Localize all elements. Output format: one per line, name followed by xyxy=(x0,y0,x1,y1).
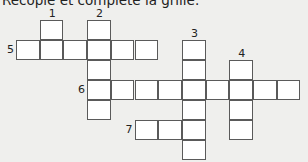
grid-cell[interactable] xyxy=(111,40,135,60)
grid-cell[interactable] xyxy=(229,80,253,100)
grid-cell[interactable] xyxy=(87,80,111,100)
grid-cell[interactable] xyxy=(135,40,159,60)
grid-cell[interactable] xyxy=(87,40,111,60)
grid-cell[interactable] xyxy=(111,80,135,100)
clue-number-5: 5 xyxy=(7,44,14,55)
clue-number-3: 3 xyxy=(191,28,198,39)
grid-cell[interactable] xyxy=(182,60,206,80)
grid-cell[interactable] xyxy=(63,40,87,60)
clue-number-4: 4 xyxy=(238,48,245,59)
grid-cell[interactable] xyxy=(229,60,253,80)
grid-cell[interactable] xyxy=(182,100,206,120)
grid-cell[interactable] xyxy=(40,20,64,40)
grid-cell[interactable] xyxy=(135,120,159,140)
grid-cell[interactable] xyxy=(206,80,230,100)
grid-cell[interactable] xyxy=(277,80,301,100)
grid-cell[interactable] xyxy=(40,40,64,60)
grid-cell[interactable] xyxy=(253,80,277,100)
grid-cell[interactable] xyxy=(229,120,253,140)
grid-cell[interactable] xyxy=(182,120,206,140)
grid-cell[interactable] xyxy=(158,120,182,140)
grid-cell[interactable] xyxy=(87,20,111,40)
grid-cell[interactable] xyxy=(87,60,111,80)
grid-cell[interactable] xyxy=(182,80,206,100)
grid-cell[interactable] xyxy=(16,40,40,60)
clue-number-1: 1 xyxy=(49,8,56,19)
grid-cell[interactable] xyxy=(229,100,253,120)
grid-cell[interactable] xyxy=(135,80,159,100)
grid-cell[interactable] xyxy=(182,40,206,60)
grid-cell[interactable] xyxy=(158,80,182,100)
clue-number-7: 7 xyxy=(126,124,133,135)
grid-cell[interactable] xyxy=(182,140,206,160)
clue-number-6: 6 xyxy=(78,84,85,95)
clue-number-2: 2 xyxy=(96,8,103,19)
grid-cell[interactable] xyxy=(87,100,111,120)
